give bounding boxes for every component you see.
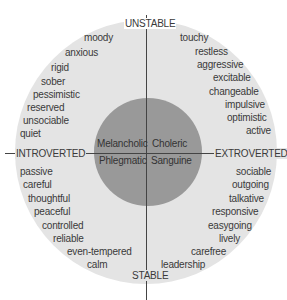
trait-label: moody (84, 32, 113, 44)
trait-label: excitable (213, 72, 251, 84)
trait-label: reliable (53, 233, 84, 245)
trait-label: optimistic (227, 112, 267, 124)
trait-label: aggressive (197, 59, 243, 71)
trait-label: outgoing (232, 179, 269, 191)
trait-label: careful (23, 179, 52, 191)
temperament-choleric: Choleric (152, 138, 187, 150)
axis-label-stable: STABLE (131, 270, 169, 281)
temperament-sanguine: Sanguine (151, 155, 192, 167)
inner-circle (94, 98, 202, 206)
trait-label: reserved (27, 102, 64, 114)
trait-label: rigid (51, 62, 69, 74)
axis-label-introverted: INTROVERTED (15, 148, 86, 159)
temperament-melancholic: Melancholic (97, 138, 148, 150)
trait-label: active (246, 125, 271, 137)
trait-label: sober (41, 76, 65, 88)
trait-label: calm (87, 259, 107, 271)
trait-label: even-tempered (67, 246, 132, 258)
trait-label: pessimistic (33, 89, 80, 101)
trait-label: responsive (212, 206, 258, 218)
trait-label: quiet (20, 128, 41, 140)
trait-label: carefree (191, 246, 226, 258)
trait-label: changeable (209, 86, 259, 98)
trait-label: peaceful (34, 206, 70, 218)
trait-label: leadership (161, 259, 205, 271)
trait-label: sociable (236, 166, 271, 178)
axis-label-extroverted: EXTROVERTED (214, 148, 287, 159)
trait-label: unsociable (23, 115, 69, 127)
trait-label: thoughtful (28, 193, 70, 205)
trait-label: lively (219, 233, 240, 245)
trait-label: anxious (65, 47, 98, 59)
temperament-phlegmatic: Phlegmatic (99, 155, 146, 167)
trait-label: controlled (42, 220, 83, 232)
trait-label: passive (20, 166, 53, 178)
trait-label: impulsive (225, 99, 265, 111)
trait-label: easygoing (208, 220, 252, 232)
trait-label: restless (195, 46, 228, 58)
axis-label-unstable: UNSTABLE (124, 18, 176, 29)
trait-label: talkative (229, 193, 264, 205)
trait-label: touchy (180, 32, 208, 44)
